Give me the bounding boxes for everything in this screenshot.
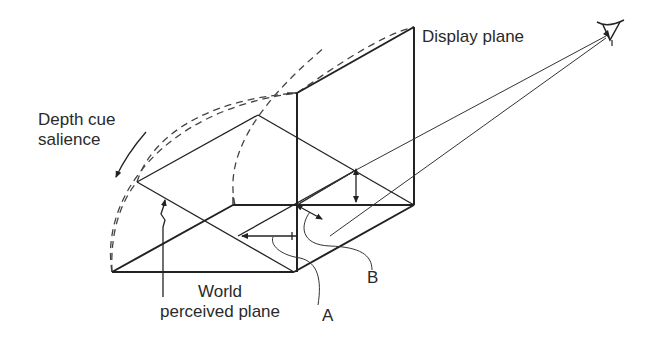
- perceived-plane-diagonal-back: [258, 115, 414, 205]
- world-label-line1: World: [145, 282, 295, 301]
- label-b: B: [367, 268, 378, 287]
- floor-left-diagonal: [112, 205, 233, 272]
- label-a: A: [322, 306, 333, 325]
- floor-right-diagonal: [294, 205, 414, 272]
- sight-line-mid: [297, 170, 356, 205]
- depth-cue-label-line2: salience: [38, 130, 100, 149]
- world-label-line2: perceived plane: [140, 302, 300, 321]
- depth-cue-label-line1: Depth cue: [38, 110, 116, 129]
- display-plane-label: Display plane: [422, 27, 524, 46]
- left-dashed-arc: [112, 182, 137, 272]
- perspective-diagram: Display plane Depth cue salience World p…: [0, 0, 654, 342]
- arrow-b-diagonal: [300, 207, 322, 219]
- sight-line-lower: [330, 38, 606, 236]
- display-plane-top-edge: [297, 27, 414, 93]
- perceived-plane-diagonal-down: [137, 182, 294, 272]
- perceived-plane-left: [137, 115, 258, 182]
- inner-dashed-arc: [233, 47, 325, 205]
- world-pointer-arrow: [161, 200, 165, 227]
- sight-line-upper: [356, 36, 606, 170]
- diagram-graphics: [0, 0, 654, 342]
